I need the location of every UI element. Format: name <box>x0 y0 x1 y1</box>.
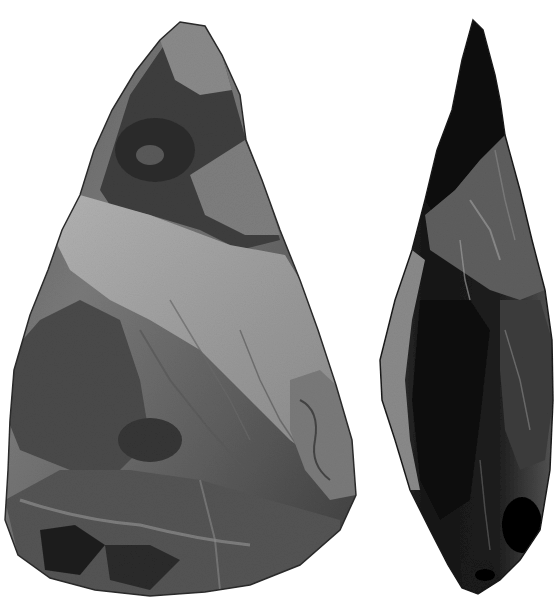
stone-tools-illustration <box>0 0 554 609</box>
hand-axe-side-view <box>370 0 554 609</box>
photograph: Black and white photograph of two flint … <box>0 0 554 609</box>
hand-axe-face-view <box>0 0 370 609</box>
